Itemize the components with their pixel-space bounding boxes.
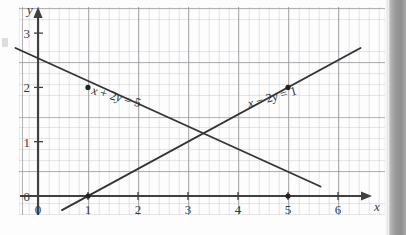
graph-screenshot: 0 1 2 3 4 5 6 0 1 2 3 y x x + 2y = 5 x −… — [0, 0, 406, 235]
scan-gutter-band — [388, 0, 406, 235]
y-tick-label-2: 2 — [16, 81, 30, 94]
y-tick-label-3: 3 — [16, 27, 30, 40]
y-axis-arrowhead — [33, 7, 42, 18]
x-tick-label-3: 3 — [185, 203, 192, 216]
scan-artifact-speck — [2, 38, 8, 47]
plot-vector-layer — [0, 0, 406, 235]
x-axis-label: x — [374, 200, 380, 213]
x-axis-arrowhead — [361, 191, 372, 200]
x-tick-label-1: 1 — [85, 203, 92, 216]
x-tick-label-2: 2 — [135, 203, 142, 216]
line-x-plus-2y-equals-5 — [16, 48, 321, 187]
point-5-0 — [285, 193, 290, 198]
y-tick-label-0: 0 — [16, 190, 30, 203]
point-1-0 — [85, 193, 90, 198]
x-tick-label-6: 6 — [335, 203, 342, 216]
x-tick-label-5: 5 — [285, 203, 292, 216]
x-tick-label-0: 0 — [35, 203, 42, 216]
axes-group — [20, 7, 372, 215]
y-tick-label-1: 1 — [16, 135, 30, 148]
point-1-2 — [85, 85, 90, 90]
line-x-minus-2y-equals-1 — [62, 48, 361, 210]
coordinate-plane-figure: 0 1 2 3 4 5 6 0 1 2 3 y x x + 2y = 5 x −… — [0, 0, 406, 235]
y-axis-label: y — [27, 3, 33, 16]
x-tick-label-4: 4 — [235, 203, 242, 216]
